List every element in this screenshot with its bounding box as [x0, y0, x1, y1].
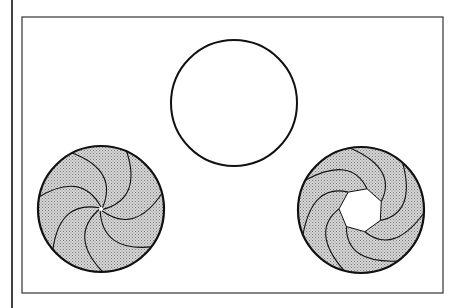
closed-iris-figure — [38, 146, 164, 272]
open-aperture-figure — [171, 40, 297, 166]
partial-iris-figure — [298, 147, 424, 273]
diagram-canvas — [0, 0, 463, 308]
